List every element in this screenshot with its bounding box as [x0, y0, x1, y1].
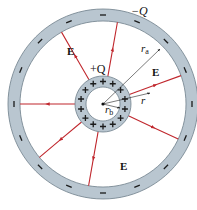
- field-lines: [20, 22, 181, 185]
- field-label-top-left: E: [67, 45, 74, 57]
- field-label-bottom: E: [120, 160, 127, 172]
- radius-b-label: rb: [105, 103, 113, 117]
- field-line: [62, 32, 90, 80]
- field-line: [39, 122, 81, 157]
- radius-a-label: ra: [141, 42, 149, 56]
- coaxial-field-diagram: −Q +Q E E E ra r rb: [0, 0, 197, 210]
- field-line: [129, 76, 181, 95]
- field-label-right: E: [152, 66, 159, 78]
- field-line: [128, 116, 178, 139]
- inner-charge-label: +Q: [90, 62, 106, 76]
- field-line: [108, 22, 118, 76]
- radius-r-label: r: [141, 94, 146, 106]
- field-line: [89, 132, 99, 186]
- outer-charge-label: −Q: [131, 4, 148, 18]
